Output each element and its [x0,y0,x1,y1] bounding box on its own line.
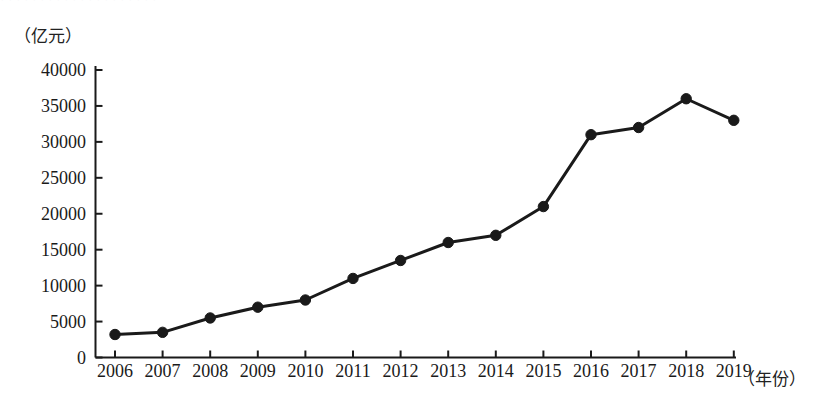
x-axis-tick-label: 2019 [704,362,764,380]
x-axis-tick-label-group: 2006200720082009201020112012201320142015… [0,0,818,405]
line-chart-figure: ，，，，，，，，，，，，，，，，，，，， （亿元） （年份） 050001000… [0,0,818,405]
